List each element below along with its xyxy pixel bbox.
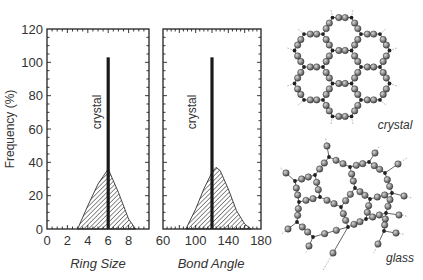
oxygen-atom [385,203,391,209]
vertex-atom [293,82,297,86]
crystal-structure-label: crystal [378,118,413,132]
oxygen-atom [294,86,300,92]
x-tick-label: 0 [43,233,50,248]
vertex-atom [378,65,382,69]
oxygen-atom [357,218,363,224]
oxygen-atom [324,197,330,203]
vertex-atom [327,155,331,159]
oxygen-atom [376,166,382,172]
y-tick-label: 60 [29,122,43,137]
oxygen-atom [321,230,327,236]
oxygen-atom [340,210,346,216]
oxygen-atom [321,160,327,166]
oxygen-atom [326,20,332,26]
y-tick-label: 120 [21,22,43,37]
vertex-atom [346,225,350,229]
x-tick-label: 2 [64,233,71,248]
vertex-atom [302,98,306,102]
vertex-atom [359,32,363,36]
y-tick-label: 20 [29,188,43,203]
oxygen-atom [350,178,356,184]
oxygen-atom [370,97,376,103]
x-tick-label: 60 [156,233,170,248]
vertex-atom [318,195,322,199]
oxygen-atom [384,176,390,182]
vertex-atom [359,98,363,102]
oxygen-atom [326,86,332,92]
vertex-atom [302,65,306,69]
vertex-atom [321,65,325,69]
oxygen-atom [364,31,370,37]
oxygen-atom [347,191,353,197]
oxygen-atom [342,80,348,86]
oxygen-atom [387,196,393,202]
oxygen-atom [342,14,348,20]
oxygen-atom [336,14,342,20]
oxygen-atom [365,202,371,208]
oxygen-atom [364,209,370,215]
oxygen-atom [359,160,365,166]
vertex-atom [353,186,357,190]
vertex-atom [331,115,335,119]
oxygen-atom [294,53,300,59]
oxygen-atom [351,75,357,81]
oxygen-atom [355,91,361,97]
vertex-atom [331,16,335,20]
oxygen-atom [401,193,407,199]
oxygen-atom [313,97,319,103]
oxygen-atom [333,157,339,163]
oxygen-atom [293,185,299,191]
bond-angle-plot: 60100140180 [156,29,272,248]
vertex-atom [339,205,343,209]
oxygen-atom [316,166,322,172]
vertex-atom [382,229,386,233]
oxygen-atom [376,212,382,218]
vertex-atom [302,32,306,36]
oxygen-atom [355,58,361,64]
oxygen-atom [364,97,370,103]
oxygen-atom [336,47,342,53]
vertex-atom [350,49,354,53]
oxygen-atom [313,179,319,185]
vertex-atom [388,49,392,53]
oxygen-atom [304,229,310,235]
crystal-annotation-ring-size: crystal [90,95,104,130]
glass-distribution-area [186,167,251,229]
oxygen-atom [364,64,370,70]
vertex-atom [321,98,325,102]
vertex-atom [388,82,392,86]
oxygen-atom [342,197,348,203]
oxygen-atom [353,162,359,168]
vertex-atom [295,220,299,224]
oxygen-atom [380,58,386,64]
x-axis-title-ring-size: Ring Size [70,256,126,271]
vertex-atom [350,115,354,119]
oxygen-atom [295,205,301,211]
vertex-atom [383,171,387,175]
y-axis-title: Frequency (%) [3,90,17,169]
oxygen-atom [381,222,387,228]
oxygen-atom [383,75,389,81]
oxygen-atom [383,42,389,48]
oxygen-atom [369,214,375,220]
vertex-atom [313,173,317,177]
oxygen-atom [330,250,336,256]
y-tick-label: 80 [29,88,43,103]
oxygen-atom [342,113,348,119]
glass-structure-label: glass [386,251,414,265]
oxygen-atom [313,31,319,37]
oxygen-atom [323,102,329,108]
oxygen-atom [351,108,357,114]
oxygen-atom [294,192,300,198]
oxygen-atom [380,91,386,97]
oxygen-atom [298,69,304,75]
oxygen-atom [336,113,342,119]
oxygen-atom [283,170,289,176]
vertex-atom [384,211,388,215]
oxygen-atom [305,174,311,180]
vertex-atom [378,32,382,36]
oxygen-atom [323,69,329,75]
x-tick-label: 180 [250,233,272,248]
oxygen-atom [298,36,304,42]
oxygen-atom [342,217,348,223]
